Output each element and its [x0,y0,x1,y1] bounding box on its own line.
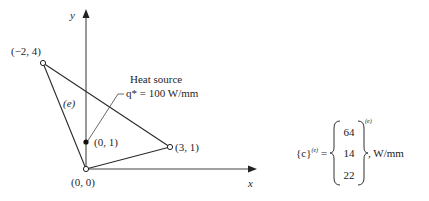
edge-neg2-4-to-origin [43,63,86,169]
heat-source-leader-line [87,94,124,142]
node-3-1-label: (3, 1) [175,142,199,153]
vector-entry-1: 64 [342,126,356,138]
vector-entry-3: 22 [342,169,356,181]
equation-unit: , W/mm [368,147,404,159]
y-axis [83,9,90,169]
y-axis-arrow-icon [83,9,90,18]
vector-superscript: (e) [365,118,372,124]
x-axis-arrow-icon [248,166,257,173]
heat-source-marker-icon [83,139,88,144]
equation-equals: = [321,147,327,159]
load-vector-equation: {c}(e) = 64 14 22 (e) , W/mm [292,118,422,188]
node-3-1-marker-icon [167,144,172,149]
vector-entry-2: 14 [342,147,356,159]
equation-lhs-superscript: (e) [311,147,318,153]
equation-lhs-symbol: {c} [296,147,311,159]
heat-source-point-label: (0, 1) [94,137,118,148]
y-axis-label: y [70,10,75,21]
node-origin-label: (0, 0) [71,177,95,188]
node-neg2-4-label: (−2, 4) [11,46,41,57]
heat-source-title: Heat source [130,74,182,85]
edge-origin-to-3-1 [86,147,170,169]
x-axis [86,166,257,173]
left-brace-icon [330,120,342,186]
right-brace-icon [356,120,368,186]
equation-lhs: {c}(e) = [296,147,327,159]
element-label: (e) [63,98,75,109]
x-axis-label: x [248,178,253,189]
node-neg2-4-marker-icon [40,60,45,65]
heat-source-value: q* = 100 W/mm [126,88,198,99]
node-origin-marker-icon [83,166,88,171]
